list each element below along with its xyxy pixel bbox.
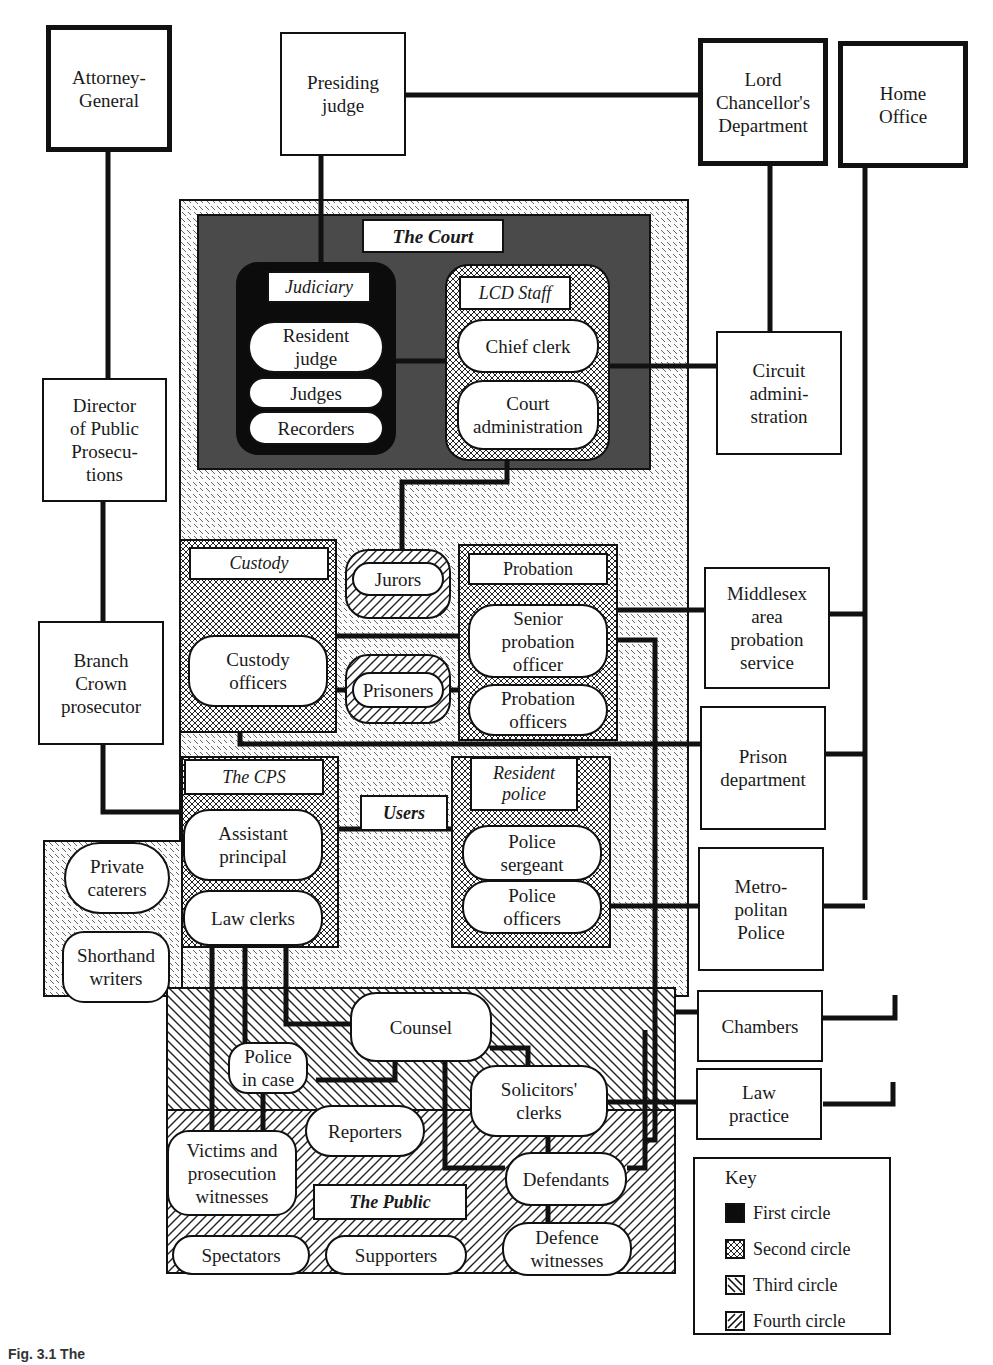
law-clerks-node: Law clerks [183,890,323,946]
first-circle-swatch-icon [725,1203,745,1223]
solicitors-clerks-node: Solicitors' clerks [470,1065,608,1137]
home-office-label: Home Office [879,82,927,128]
lcd-label: Lord Chancellor's Department [716,68,810,137]
shorthand-writers-node: Shorthand writers [62,931,170,1003]
supporters-node: Supporters [325,1235,467,1275]
cps-title: The CPS [184,759,324,795]
legend-item-fourth: Fourth circle [725,1303,889,1339]
judges-label: Judges [290,382,342,405]
recorders-node: Recorders [248,411,384,445]
the-public-title: The Public [313,1184,467,1220]
met-police-label: Metro- politan Police [735,875,788,944]
defendants-label: Defendants [523,1168,610,1191]
private-caterers-node: Private caterers [64,842,170,914]
attorney-general-box: Attorney- General [46,25,172,152]
court-admin-label: Court administration [473,392,583,438]
assistant-principal-node: Assistant principal [183,809,323,881]
chambers-label: Chambers [721,1015,798,1038]
resident-judge-node: Resident judge [248,321,384,373]
resident-police-title-text: Resident police [493,763,555,805]
judges-node: Judges [248,377,384,409]
legend: Key First circle Second circle Third cir… [693,1157,891,1335]
lcd-staff-title-text: LCD Staff [479,283,552,304]
circuit-admin-label: Circuit admini- stration [749,359,808,428]
legend-label-fourth: Fourth circle [753,1311,845,1332]
defence-witnesses-node: Defence witnesses [502,1222,632,1276]
legend-label-second: Second circle [753,1239,850,1260]
defendants-node: Defendants [505,1152,627,1206]
probation-officers-node: Probation officers [468,684,608,736]
custody-officers-label: Custody officers [226,648,289,694]
lcd-box: Lord Chancellor's Department [698,38,828,166]
judiciary-title: Judiciary [267,271,371,303]
circuit-admin-box: Circuit admini- stration [716,331,842,455]
third-circle-swatch-icon [725,1275,745,1295]
lcd-staff-title: LCD Staff [459,276,571,310]
police-sergeant-label: Police sergeant [501,830,564,876]
dpp-label: Director of Public Prosecu- tions [70,394,139,486]
recorders-label: Recorders [277,417,354,440]
judiciary-title-text: Judiciary [285,277,353,298]
middlesex-box: Middlesex area probation service [704,567,830,689]
cps-title-text: The CPS [222,767,286,788]
court-admin-node: Court administration [457,380,599,450]
legend-item-third: Third circle [725,1267,889,1303]
senior-probation-label: Senior probation officer [502,607,575,676]
prisoners-node: Prisoners [352,672,444,708]
users-title: Users [360,795,448,831]
shorthand-writers-label: Shorthand writers [77,944,155,990]
counsel-label: Counsel [390,1016,452,1039]
probation-title-text: Probation [503,559,573,580]
private-caterers-label: Private caterers [87,855,146,901]
jurors-node: Jurors [352,562,444,596]
counsel-node: Counsel [350,992,492,1062]
legend-item-first: First circle [725,1195,889,1231]
spectators-label: Spectators [201,1244,280,1267]
jurors-label: Jurors [375,568,421,591]
law-clerks-label: Law clerks [211,907,295,930]
chief-clerk-label: Chief clerk [486,335,571,358]
fourth-circle-swatch-icon [725,1311,745,1331]
police-in-case-node: Police in case [228,1042,308,1094]
resident-judge-label: Resident judge [283,324,350,370]
prison-dept-box: Prison department [700,706,826,830]
presiding-judge-box: Presiding judge [280,32,406,156]
legend-item-second: Second circle [725,1231,889,1267]
law-practice-box: Law practice [696,1068,822,1140]
supporters-label: Supporters [355,1244,437,1267]
law-practice-label: Law practice [729,1081,789,1127]
the-public-title-text: The Public [349,1192,431,1213]
spectators-node: Spectators [172,1235,310,1275]
police-sergeant-node: Police sergeant [462,825,602,881]
second-circle-swatch-icon [725,1239,745,1259]
defence-witnesses-label: Defence witnesses [531,1226,604,1272]
victims-witnesses-label: Victims and prosecution witnesses [186,1139,277,1208]
probation-title: Probation [468,553,608,585]
dpp-box: Director of Public Prosecu- tions [42,378,167,502]
probation-officers-label: Probation officers [501,687,575,733]
figure-caption: Fig. 3.1 The [8,1346,85,1362]
resident-police-title: Resident police [470,757,578,811]
middlesex-label: Middlesex area probation service [727,582,807,674]
senior-probation-node: Senior probation officer [468,604,608,678]
home-office-box: Home Office [838,41,968,168]
the-court-title-text: The Court [393,226,474,247]
attorney-general-label: Attorney- General [72,66,146,112]
met-police-box: Metro- politan Police [698,847,824,971]
branch-crown-label: Branch Crown prosecutor [61,649,141,718]
police-officers-node: Police officers [462,880,602,934]
legend-label-first: First circle [753,1203,830,1224]
police-in-case-label: Police in case [242,1045,294,1091]
reporters-node: Reporters [305,1105,425,1157]
assistant-principal-label: Assistant principal [218,822,288,868]
reporters-label: Reporters [328,1120,402,1143]
prison-dept-label: Prison department [720,745,805,791]
legend-title: Key [725,1167,889,1189]
solicitors-clerks-label: Solicitors' clerks [501,1078,577,1124]
prisoners-label: Prisoners [363,679,434,702]
legend-label-third: Third circle [753,1275,837,1296]
police-officers-label: Police officers [503,884,561,930]
custody-title: Custody [189,547,329,580]
victims-witnesses-node: Victims and prosecution witnesses [167,1130,297,1216]
users-title-text: Users [383,803,425,824]
